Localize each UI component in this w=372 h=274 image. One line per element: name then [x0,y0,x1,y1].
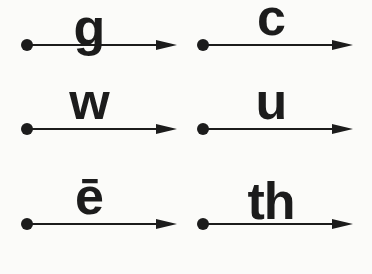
letter-label: c [257,0,285,43]
right-arrowhead-icon [332,124,353,134]
right-arrowhead-icon [156,40,177,50]
right-arrowhead-icon [156,124,177,134]
right-arrowhead-icon [156,219,177,229]
right-arrowhead-icon [332,219,353,229]
letter-label: g [74,1,105,53]
letter-label: w [69,75,108,127]
right-arrowhead-icon [332,40,353,50]
worksheet-canvas: g c w u ē th [0,0,372,274]
letter-label: ē [75,170,103,222]
letter-label: u [256,75,287,127]
letter-label: th [247,175,294,227]
